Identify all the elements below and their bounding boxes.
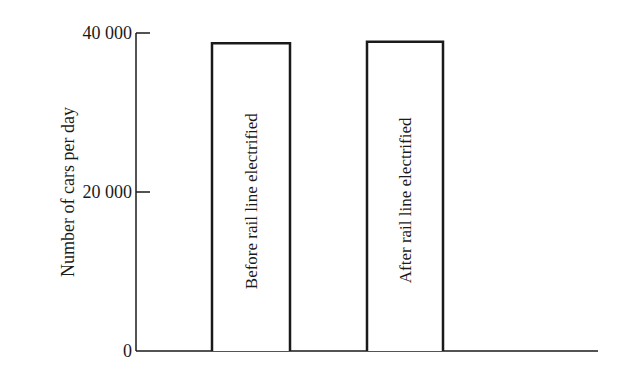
bar-label: Before rail line electrified	[242, 113, 261, 290]
y-tick-label: 40 000	[83, 23, 133, 43]
y-axis-title: Number of cars per day	[58, 107, 78, 277]
y-axis-ticks: 020 00040 000	[83, 23, 151, 361]
y-tick-label: 0	[123, 341, 132, 361]
y-tick-label: 20 000	[83, 182, 133, 202]
bar: Before rail line electrified	[212, 43, 290, 351]
bars: Before rail line electrifiedAfter rail l…	[212, 42, 443, 351]
bar-chart: Number of cars per day 020 00040 000 Bef…	[0, 0, 628, 373]
bar-label: After rail line electrified	[396, 117, 415, 283]
bar: After rail line electrified	[367, 42, 443, 351]
